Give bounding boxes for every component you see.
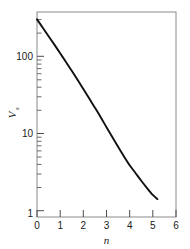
x-tick-label-4: 4: [127, 220, 133, 231]
x-axis-title: n: [104, 234, 110, 246]
y-tick-label-1: 1: [27, 208, 33, 219]
plot-frame: [37, 12, 176, 217]
x-tick-label-3: 3: [104, 220, 110, 231]
y-axis-title-subscript: s: [13, 107, 21, 110]
semilog-decay-chart: 100 10 1 0 1 2 3 4 5 6 n V s: [0, 0, 190, 249]
figure-container: 100 10 1 0 1 2 3 4 5 6 n V s: [0, 0, 190, 249]
x-tick-label-2: 2: [81, 220, 87, 231]
y-tick-label-10: 10: [22, 128, 34, 139]
x-tick-label-1: 1: [57, 220, 63, 231]
x-tick-label-6: 6: [173, 220, 179, 231]
y-tick-label-100: 100: [16, 51, 33, 62]
y-axis-title: V s: [6, 107, 21, 118]
x-tick-label-5: 5: [150, 220, 156, 231]
y-axis-title-main: V: [6, 110, 18, 118]
x-tick-label-0: 0: [34, 220, 40, 231]
